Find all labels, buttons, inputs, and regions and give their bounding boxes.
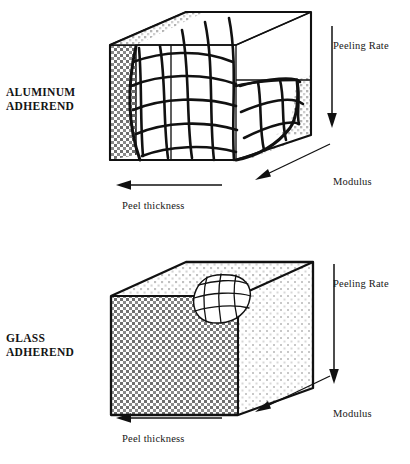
axis-label-modulus: Modulus (333, 408, 372, 419)
panel-aluminum-adherend: ALUMINUM ADHEREND (0, 0, 410, 232)
glass-block-drawing (0, 232, 410, 464)
figure-canvas: ALUMINUM ADHEREND (0, 0, 410, 464)
axis-label-peeling-rate: Peeling Rate (333, 278, 389, 289)
axis-label-peeling-rate: Peeling Rate (333, 40, 389, 51)
panel-glass-adherend: GLASS ADHEREND (0, 232, 410, 464)
axis-label-peel-thickness: Peel thickness (122, 433, 185, 444)
aluminum-peel-thickness-arrow (116, 180, 222, 190)
axis-label-modulus: Modulus (333, 176, 372, 187)
axis-label-peel-thickness: Peel thickness (122, 200, 185, 211)
aluminum-block-drawing (0, 0, 410, 232)
